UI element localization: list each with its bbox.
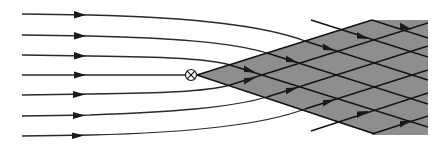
flow-diagram (0, 0, 446, 147)
streamline-5 (22, 85, 230, 95)
arrow-icon (73, 91, 85, 98)
arrow-icon (74, 32, 86, 40)
shaded-wedge-region (197, 20, 428, 135)
arrow-icon (73, 112, 85, 119)
arrow-icon (74, 72, 86, 79)
arrow-icon (72, 133, 84, 140)
streamline-1 (22, 14, 305, 41)
source-marker-icon (186, 70, 197, 81)
incoming-arrowheads (72, 11, 86, 139)
streamline-2 (22, 35, 267, 53)
streamline-6 (22, 97, 267, 116)
arrow-icon (74, 11, 86, 19)
streamline-7 (22, 109, 305, 136)
arrow-icon (74, 52, 86, 60)
streamline-3 (22, 55, 230, 65)
